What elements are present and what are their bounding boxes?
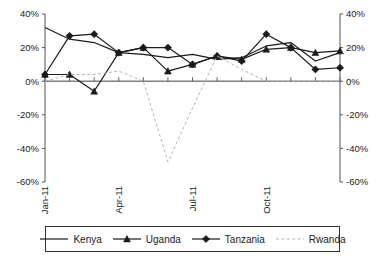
series-marker-tanzania: [336, 64, 343, 71]
legend-item-kenya[interactable]: Kenya: [39, 233, 101, 245]
y-axis-tick-label-right: -20%: [346, 109, 369, 120]
x-axis-tick-label-group: Oct-11: [261, 186, 272, 214]
legend-label: Rwanda: [309, 234, 346, 245]
legend-swatch-uganda-icon: [112, 233, 142, 245]
x-axis-tick-label-group: Apr-11: [113, 186, 124, 214]
y-axis-tick-label-right: -40%: [346, 143, 369, 154]
line-chart: 40%40%20%20%0%0%-20%-20%-40%-40%-60%-60%…: [0, 0, 383, 259]
legend-label: Kenya: [73, 234, 101, 245]
y-axis-tick-label-left: 0%: [25, 76, 39, 87]
x-axis-tick-label: Oct-11: [261, 186, 272, 214]
y-axis-tick-label-right: 0%: [346, 76, 360, 87]
legend-swatch-tanzania-icon: [191, 233, 221, 245]
legend-item-rwanda[interactable]: Rwanda: [275, 233, 346, 245]
legend-item-tanzania[interactable]: Tanzania: [191, 233, 265, 245]
x-axis-tick-label: Apr-11: [113, 186, 124, 214]
chart-container: 40%40%20%20%0%0%-20%-20%-40%-40%-60%-60%…: [0, 0, 383, 259]
x-axis-tick-label-group: Jul-11: [187, 186, 198, 211]
x-axis-tick-label-group: Jan-11: [39, 186, 50, 214]
legend-label: Tanzania: [225, 234, 265, 245]
y-axis-tick-label-left: -40%: [17, 143, 40, 154]
chart-legend: KenyaUgandaTanzaniaRwanda: [45, 226, 340, 252]
legend-label: Uganda: [146, 234, 181, 245]
legend-swatch-rwanda-icon: [275, 233, 305, 245]
legend-item-uganda[interactable]: Uganda: [112, 233, 181, 245]
y-axis-tick-label-left: -20%: [17, 109, 40, 120]
series-line-rwanda: [45, 56, 340, 162]
x-axis-tick-label: Jan-11: [39, 186, 50, 214]
x-axis-tick-label: Jul-11: [187, 186, 198, 211]
y-axis-tick-label-left: -60%: [17, 176, 40, 187]
y-axis-tick-label-right: 40%: [346, 8, 366, 19]
legend-marker-icon: [202, 235, 209, 242]
y-axis-tick-label-right: -60%: [346, 176, 369, 187]
y-axis-tick-label-left: 20%: [20, 42, 40, 53]
series-line-kenya: [45, 27, 340, 61]
series-marker-uganda: [91, 88, 98, 94]
y-axis-tick-label-left: 40%: [20, 8, 40, 19]
y-axis-tick-label-right: 20%: [346, 42, 366, 53]
series-marker-tanzania: [164, 44, 171, 51]
legend-swatch-kenya-icon: [39, 233, 69, 245]
